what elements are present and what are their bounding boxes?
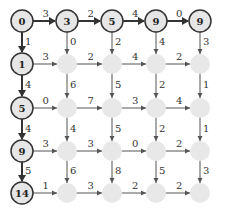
grid-diagram: 3240324207343302132210243465214452156853… — [0, 0, 226, 213]
grid-node-computed: 0 — [11, 10, 33, 32]
edge-weight: 4 — [25, 79, 31, 90]
edge-weight: 3 — [88, 138, 94, 149]
grid-node-computed: 5 — [11, 97, 33, 119]
edge-weight: 0 — [43, 95, 49, 106]
grid-node-empty — [146, 183, 166, 203]
edge-weight: 4 — [70, 123, 76, 134]
edge-weight: 4 — [132, 8, 138, 19]
grid-node-empty — [57, 141, 77, 161]
edge-weight: 2 — [159, 79, 165, 90]
node-value: 14 — [15, 188, 29, 199]
edge-weight: 3 — [43, 138, 49, 149]
edge-weight: 1 — [25, 36, 31, 47]
edge-weight: 2 — [176, 138, 182, 149]
grid-node-empty — [102, 98, 122, 118]
edge-weight: 5 — [115, 79, 121, 90]
edge-weight: 3 — [88, 180, 94, 191]
edge-weight: 8 — [115, 165, 121, 176]
edge-weight: 2 — [159, 123, 165, 134]
edge-weight: 1 — [43, 180, 49, 191]
edge-weight: 1 — [203, 123, 209, 134]
grid-node-computed: 14 — [11, 182, 33, 204]
grid-node-computed: 5 — [101, 10, 123, 32]
grid-node-computed: 9 — [145, 10, 167, 32]
grid-node-empty — [57, 98, 77, 118]
edge-weight: 0 — [132, 138, 138, 149]
edge-weight: 2 — [88, 8, 94, 19]
edge-weight: 0 — [70, 36, 76, 47]
grid-node-empty — [146, 141, 166, 161]
edge-weight: 2 — [115, 36, 121, 47]
edge-weight: 3 — [43, 51, 49, 62]
edge-weight: 3 — [203, 36, 209, 47]
edge-weight: 4 — [25, 123, 31, 134]
node-value: 3 — [64, 16, 71, 27]
edge-weight: 5 — [25, 165, 31, 176]
node-value: 0 — [19, 16, 26, 27]
edge-weight: 1 — [203, 79, 209, 90]
edge-weight: 2 — [176, 180, 182, 191]
grid-node-empty — [57, 54, 77, 74]
edge-weight: 3 — [43, 8, 49, 19]
grid-node-computed: 3 — [56, 10, 78, 32]
edge-weight: 6 — [70, 79, 76, 90]
edge-weight: 4 — [132, 51, 138, 62]
edge-weight: 5 — [115, 123, 121, 134]
edge-weight: 3 — [203, 165, 209, 176]
grid-node-empty — [102, 54, 122, 74]
edge-weight: 6 — [70, 165, 76, 176]
edge-weight: 7 — [88, 95, 94, 106]
grid-node-empty — [102, 141, 122, 161]
edge-weight: 5 — [159, 165, 165, 176]
edge-weight: 4 — [176, 95, 182, 106]
edge-weight: 2 — [176, 51, 182, 62]
grid-node-empty — [190, 141, 210, 161]
grid-node-empty — [190, 54, 210, 74]
edge-weight: 4 — [159, 36, 165, 47]
nodes-layer: 0359915914 — [11, 10, 211, 204]
node-value: 5 — [109, 16, 116, 27]
grid-node-empty — [190, 183, 210, 203]
grid-node-computed: 1 — [11, 53, 33, 75]
edge-weight: 3 — [132, 95, 138, 106]
grid-node-empty — [190, 98, 210, 118]
node-value: 9 — [19, 146, 26, 157]
grid-node-computed: 9 — [11, 140, 33, 162]
edge-weight: 2 — [132, 180, 138, 191]
node-value: 9 — [153, 16, 160, 27]
node-value: 5 — [19, 103, 26, 114]
grid-node-empty — [146, 98, 166, 118]
node-value: 1 — [19, 59, 26, 70]
node-value: 9 — [197, 16, 204, 27]
grid-node-empty — [146, 54, 166, 74]
grid-node-empty — [102, 183, 122, 203]
edge-weight: 0 — [176, 8, 182, 19]
grid-node-computed: 9 — [189, 10, 211, 32]
grid-node-empty — [57, 183, 77, 203]
edge-weight: 2 — [88, 51, 94, 62]
